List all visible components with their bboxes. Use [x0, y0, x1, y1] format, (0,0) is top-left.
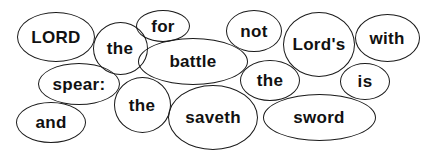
bubble-lord[interactable]: LORD — [17, 12, 95, 62]
bubble-word: and — [35, 114, 66, 131]
bubble-word: the — [107, 40, 133, 57]
bubble-word: saveth — [185, 109, 241, 126]
bubble-spear[interactable]: spear: — [38, 63, 120, 105]
bubble-with[interactable]: with — [355, 14, 420, 62]
bubble-word: for — [151, 18, 175, 35]
bubble-saveth[interactable]: saveth — [168, 85, 258, 150]
bubble-word: the — [257, 72, 283, 89]
bubble-word: battle — [169, 53, 216, 70]
bubble-lords[interactable]: Lord's — [283, 12, 355, 77]
bubble-sword[interactable]: sword — [263, 94, 376, 141]
bubble-word: with — [369, 30, 404, 47]
bubble-word: LORD — [31, 29, 80, 46]
bubble-word: not — [240, 23, 267, 40]
word-bubble-puzzle: LORD the for battle not Lord's with spea… — [0, 0, 436, 155]
bubble-battle[interactable]: battle — [138, 38, 248, 85]
bubble-the-3[interactable]: the — [240, 60, 300, 101]
bubble-word: the — [129, 97, 155, 114]
bubble-not[interactable]: not — [226, 10, 282, 52]
bubble-for[interactable]: for — [136, 10, 190, 42]
bubble-word: is — [358, 73, 373, 90]
bubble-the-2[interactable]: the — [114, 77, 171, 133]
bubble-word: spear: — [53, 76, 106, 93]
bubble-and[interactable]: and — [16, 102, 86, 143]
bubble-is[interactable]: is — [340, 63, 390, 100]
bubble-word: sword — [293, 109, 345, 126]
bubble-word: Lord's — [292, 36, 345, 53]
